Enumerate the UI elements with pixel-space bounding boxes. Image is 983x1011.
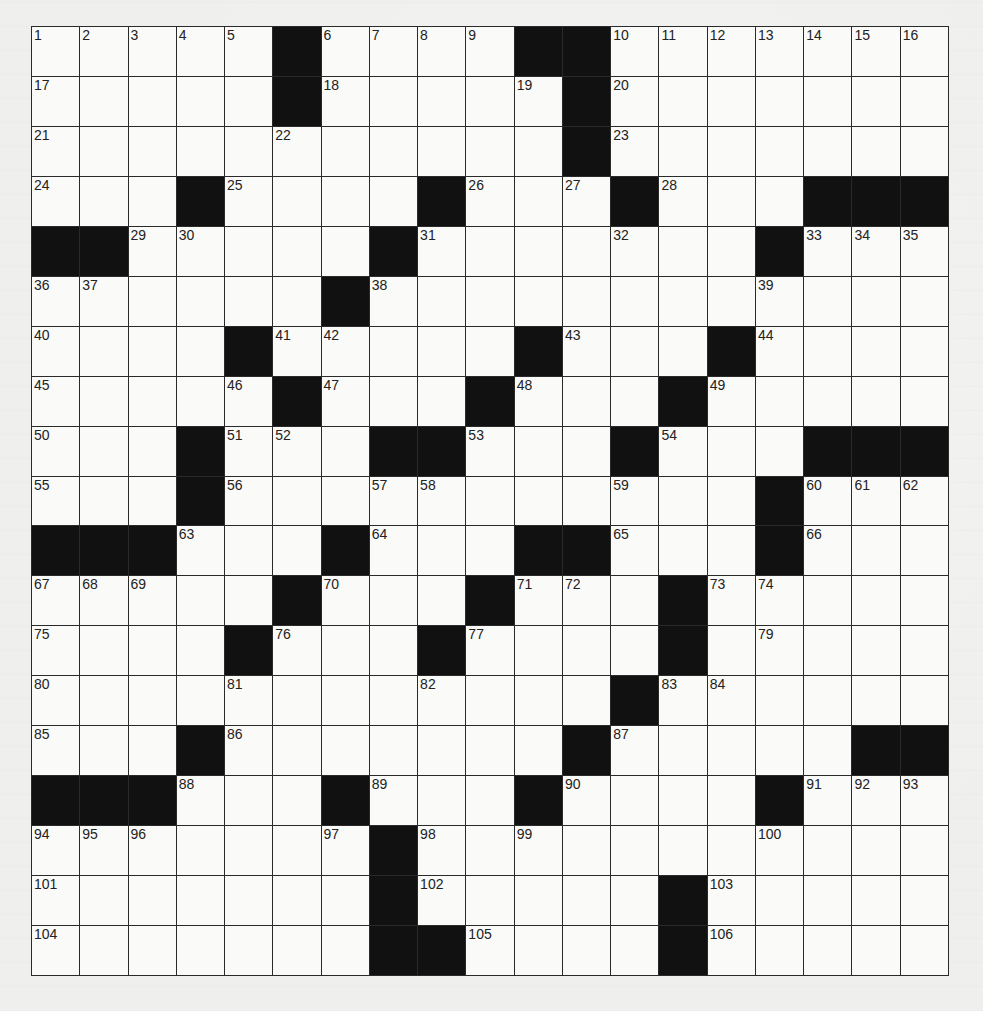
grid-cell[interactable]	[756, 77, 803, 126]
grid-cell[interactable]	[322, 876, 369, 925]
grid-cell[interactable]	[129, 876, 176, 925]
grid-cell[interactable]: 1	[32, 27, 79, 76]
grid-cell[interactable]	[418, 726, 465, 775]
grid-cell[interactable]	[515, 676, 562, 725]
grid-cell[interactable]: 5	[225, 27, 272, 76]
grid-cell[interactable]: 64	[370, 526, 417, 575]
grid-cell[interactable]	[901, 876, 948, 925]
grid-cell[interactable]	[129, 726, 176, 775]
grid-cell[interactable]: 3	[129, 27, 176, 76]
grid-cell[interactable]	[466, 127, 513, 176]
grid-cell[interactable]: 58	[418, 477, 465, 526]
grid-cell[interactable]	[852, 926, 899, 975]
grid-cell[interactable]	[466, 526, 513, 575]
grid-cell[interactable]: 21	[32, 127, 79, 176]
grid-cell[interactable]	[756, 127, 803, 176]
grid-cell[interactable]: 42	[322, 327, 369, 376]
grid-cell[interactable]: 73	[708, 576, 755, 625]
grid-cell[interactable]	[80, 427, 127, 476]
grid-cell[interactable]	[80, 726, 127, 775]
grid-cell[interactable]	[611, 776, 658, 825]
grid-cell[interactable]	[418, 277, 465, 326]
grid-cell[interactable]	[129, 427, 176, 476]
grid-cell[interactable]	[852, 327, 899, 376]
grid-cell[interactable]: 106	[708, 926, 755, 975]
grid-cell[interactable]	[708, 776, 755, 825]
grid-cell[interactable]: 71	[515, 576, 562, 625]
grid-cell[interactable]	[322, 427, 369, 476]
grid-cell[interactable]	[418, 526, 465, 575]
grid-cell[interactable]: 26	[466, 177, 513, 226]
grid-cell[interactable]: 62	[901, 477, 948, 526]
grid-cell[interactable]: 93	[901, 776, 948, 825]
grid-cell[interactable]: 87	[611, 726, 658, 775]
grid-cell[interactable]	[466, 876, 513, 925]
grid-cell[interactable]	[129, 127, 176, 176]
grid-cell[interactable]	[177, 876, 224, 925]
grid-cell[interactable]	[563, 227, 610, 276]
grid-cell[interactable]: 30	[177, 227, 224, 276]
grid-cell[interactable]	[901, 826, 948, 875]
grid-cell[interactable]	[370, 127, 417, 176]
grid-cell[interactable]: 35	[901, 227, 948, 276]
grid-cell[interactable]	[852, 676, 899, 725]
grid-cell[interactable]	[322, 477, 369, 526]
grid-cell[interactable]: 29	[129, 227, 176, 276]
grid-cell[interactable]: 43	[563, 327, 610, 376]
grid-cell[interactable]	[708, 427, 755, 476]
grid-cell[interactable]: 51	[225, 427, 272, 476]
grid-cell[interactable]	[322, 177, 369, 226]
grid-cell[interactable]: 18	[322, 77, 369, 126]
grid-cell[interactable]	[515, 127, 562, 176]
grid-cell[interactable]	[804, 626, 851, 675]
grid-cell[interactable]	[852, 77, 899, 126]
grid-cell[interactable]: 50	[32, 427, 79, 476]
grid-cell[interactable]	[708, 77, 755, 126]
grid-cell[interactable]: 97	[322, 826, 369, 875]
grid-cell[interactable]: 101	[32, 876, 79, 925]
grid-cell[interactable]: 48	[515, 377, 562, 426]
grid-cell[interactable]	[466, 227, 513, 276]
grid-cell[interactable]: 17	[32, 77, 79, 126]
grid-cell[interactable]	[273, 477, 320, 526]
grid-cell[interactable]	[901, 526, 948, 575]
grid-cell[interactable]: 66	[804, 526, 851, 575]
grid-cell[interactable]	[611, 576, 658, 625]
grid-cell[interactable]	[563, 277, 610, 326]
grid-cell[interactable]	[901, 127, 948, 176]
grid-cell[interactable]: 20	[611, 77, 658, 126]
grid-cell[interactable]	[322, 127, 369, 176]
grid-cell[interactable]	[901, 277, 948, 326]
grid-cell[interactable]	[901, 676, 948, 725]
grid-cell[interactable]	[466, 327, 513, 376]
grid-cell[interactable]	[370, 377, 417, 426]
grid-cell[interactable]	[611, 926, 658, 975]
grid-cell[interactable]	[804, 127, 851, 176]
grid-cell[interactable]: 22	[273, 127, 320, 176]
grid-cell[interactable]	[129, 277, 176, 326]
grid-cell[interactable]	[901, 377, 948, 426]
grid-cell[interactable]	[659, 277, 706, 326]
grid-cell[interactable]	[418, 576, 465, 625]
grid-cell[interactable]	[80, 876, 127, 925]
grid-cell[interactable]	[515, 277, 562, 326]
grid-cell[interactable]	[80, 377, 127, 426]
grid-cell[interactable]	[708, 726, 755, 775]
grid-cell[interactable]	[129, 626, 176, 675]
grid-cell[interactable]	[708, 177, 755, 226]
grid-cell[interactable]: 68	[80, 576, 127, 625]
grid-cell[interactable]	[418, 377, 465, 426]
grid-cell[interactable]	[225, 127, 272, 176]
grid-cell[interactable]	[177, 576, 224, 625]
grid-cell[interactable]	[563, 427, 610, 476]
grid-cell[interactable]: 77	[466, 626, 513, 675]
grid-cell[interactable]: 36	[32, 277, 79, 326]
grid-cell[interactable]	[515, 626, 562, 675]
grid-cell[interactable]: 33	[804, 227, 851, 276]
grid-cell[interactable]: 90	[563, 776, 610, 825]
grid-cell[interactable]	[563, 676, 610, 725]
grid-cell[interactable]: 53	[466, 427, 513, 476]
grid-cell[interactable]	[563, 377, 610, 426]
grid-cell[interactable]	[515, 177, 562, 226]
grid-cell[interactable]	[611, 826, 658, 875]
